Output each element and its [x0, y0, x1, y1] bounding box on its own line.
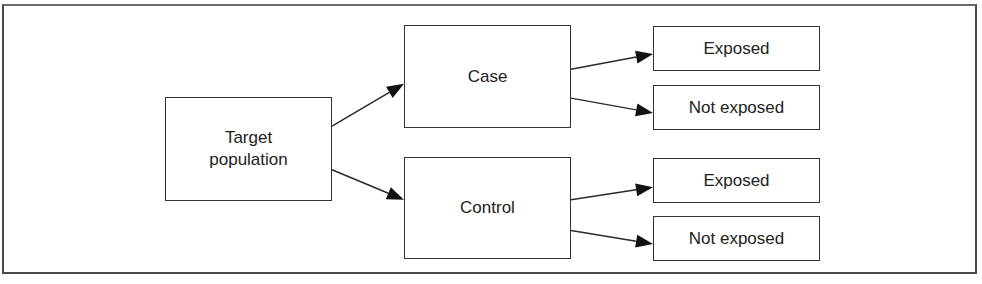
- node-control-not-exposed: Not exposed: [653, 216, 820, 261]
- node-control-not-exposed-label: Not exposed: [689, 228, 784, 250]
- node-case: Case: [404, 25, 571, 128]
- label-line-1: Target: [209, 127, 287, 149]
- node-control-exposed: Exposed: [653, 158, 820, 203]
- node-control-exposed-label: Exposed: [703, 170, 769, 192]
- node-case-exposed: Exposed: [653, 26, 820, 71]
- node-case-label: Case: [468, 66, 508, 88]
- node-case-exposed-label: Exposed: [703, 38, 769, 60]
- node-control: Control: [404, 157, 571, 259]
- node-target-population: Target population: [165, 97, 332, 201]
- node-case-not-exposed-label: Not exposed: [689, 97, 784, 119]
- node-target-population-label: Target population: [209, 127, 287, 171]
- node-control-label: Control: [460, 197, 515, 219]
- node-case-not-exposed: Not exposed: [653, 85, 820, 130]
- label-line-2: population: [209, 149, 287, 171]
